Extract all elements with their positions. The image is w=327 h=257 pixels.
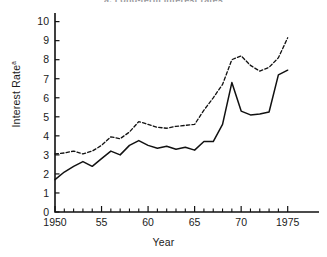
chart-axes [55,13,319,212]
y-tick-label: 10 [37,15,49,27]
x-tick-label: 1950 [43,216,67,228]
x-tick-label: 70 [235,216,247,228]
y-tick-label: 7 [43,73,49,85]
x-tick-label: 60 [142,216,154,228]
y-tick-label: 6 [43,92,49,104]
series-line-dashed [55,38,288,154]
y-tick-label: 8 [43,53,49,65]
y-tick-label: 2 [43,168,49,180]
y-axis-ticks: 012345678910 [37,15,59,217]
y-tick-label: 5 [43,111,49,123]
chart-plot-area: 012345678910 1950556065701975 [0,0,327,257]
x-tick-label: 55 [96,216,108,228]
x-tick-label: 1975 [276,216,300,228]
chart-container: a. Long-term interest rates Interest Rat… [0,0,327,257]
y-tick-label: 1 [43,187,49,199]
series-line-solid [55,70,288,179]
y-tick-label: 9 [43,34,49,46]
x-axis-ticks: 1950556065701975 [43,206,299,228]
x-tick-label: 65 [189,216,201,228]
y-tick-label: 4 [43,130,49,142]
y-tick-label: 3 [43,149,49,161]
